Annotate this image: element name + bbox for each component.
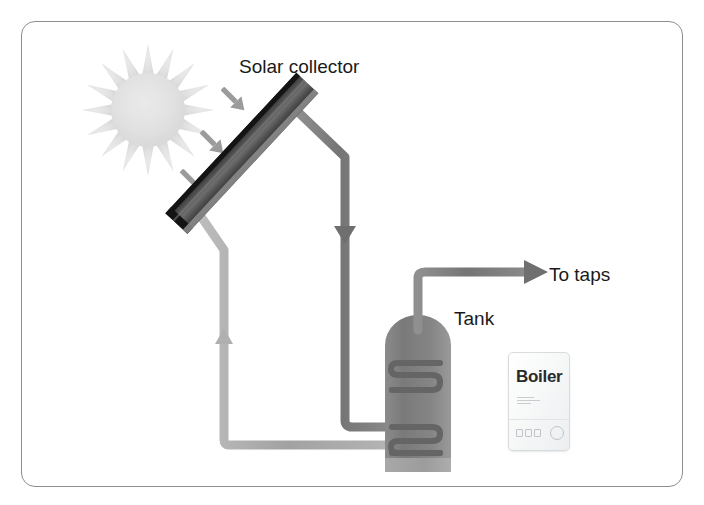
boiler-divider [509, 419, 569, 420]
tank-label: Tank [454, 308, 494, 330]
down-arrow-icon [334, 226, 356, 244]
boiler-button [534, 429, 541, 437]
boiler-label: Boiler [516, 367, 562, 387]
diagram-canvas: Boiler Solar collector To taps Tank [0, 0, 704, 505]
up-arrow-icon [215, 328, 233, 344]
boiler-detail-line [517, 403, 531, 404]
sun-icon [82, 44, 214, 176]
boiler-detail-line [517, 397, 534, 398]
tank-to-collector-return-pipe [202, 218, 392, 445]
to-taps-label: To taps [549, 264, 610, 286]
boiler-button [516, 429, 523, 437]
sun-ray-arrow-1 [217, 83, 250, 116]
solar-collector-label: Solar collector [239, 56, 359, 78]
boiler-buttons [516, 429, 541, 437]
boiler-detail-line [517, 400, 540, 401]
boiler-button [525, 429, 532, 437]
collector-to-tank-flow-pipe [296, 110, 392, 427]
right-arrow-icon [524, 260, 548, 284]
boiler-icon: Boiler [508, 352, 570, 451]
boiler-dial-icon [550, 426, 564, 440]
